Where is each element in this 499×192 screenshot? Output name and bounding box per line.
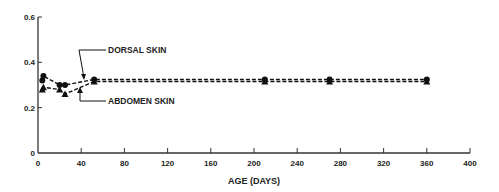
y-tick-label: 0.4: [24, 58, 36, 67]
annotations: DORSAL SKINABDOMEN SKIN: [77, 45, 175, 106]
x-tick-label: 120: [161, 159, 175, 168]
x-tick-label: 320: [377, 159, 391, 168]
annotation-leader-line: [80, 90, 106, 101]
series-line: [42, 81, 426, 94]
x-tick-label: 40: [77, 159, 86, 168]
x-tick-label: 360: [420, 159, 434, 168]
y-tick-label: 0.2: [24, 104, 36, 113]
series-line: [42, 76, 426, 85]
x-tick-label: 240: [291, 159, 305, 168]
arrow-head-icon: [77, 87, 83, 93]
x-tick-label: 280: [334, 159, 348, 168]
annotation-abdomen-skin: ABDOMEN SKIN: [108, 96, 175, 106]
arrow-head-icon: [81, 74, 86, 80]
line-chart: 0408012016020024028032036040000.20.40.6 …: [0, 0, 499, 192]
annotation-leader-line: [79, 50, 106, 78]
y-tick-label: 0.6: [24, 13, 36, 22]
annotation-dorsal-skin: DORSAL SKIN: [108, 45, 166, 55]
triangle-marker: [56, 86, 63, 93]
x-tick-label: 400: [463, 159, 477, 168]
axes: 0408012016020024028032036040000.20.40.6: [24, 13, 477, 168]
x-axis-label: AGE (DAYS): [228, 176, 280, 186]
x-tick-label: 0: [36, 159, 41, 168]
circle-marker: [62, 82, 68, 88]
triangle-marker: [40, 84, 47, 91]
series-dorsal-skin: [39, 73, 429, 88]
x-tick-label: 200: [247, 159, 261, 168]
x-tick-label: 80: [120, 159, 129, 168]
series-abdomen-skin: [39, 78, 430, 97]
circle-marker: [40, 73, 46, 79]
x-tick-label: 160: [204, 159, 218, 168]
y-tick-label: 0: [31, 149, 36, 158]
series-group: [39, 73, 430, 97]
